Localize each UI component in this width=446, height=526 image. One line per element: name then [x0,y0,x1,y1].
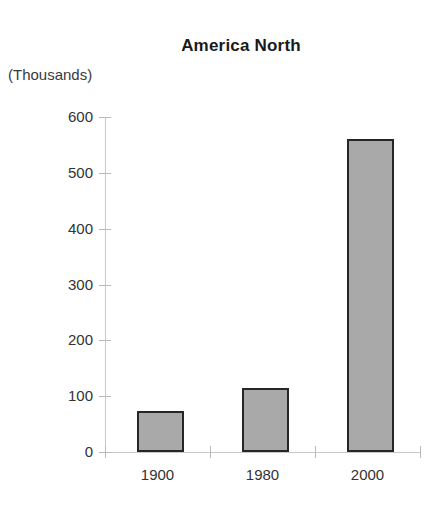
y-axis-tick-label-400: 400 [27,221,93,236]
y-axis-tick-label-100: 100 [27,388,93,403]
x-axis-tick-1 [210,446,211,458]
x-axis-tick-3 [420,446,421,458]
y-axis-tick-600 [99,117,111,118]
x-axis-tick-0 [105,446,106,458]
x-axis-label-1980: 1980 [210,466,315,483]
y-axis-tick-200 [99,340,111,341]
y-axis-tick-400 [99,229,111,230]
y-axis-tick-100 [99,396,111,397]
x-axis-tick-2 [315,446,316,458]
bar-chart-figure: America North (Thousands) 600 500 400 30… [0,0,446,526]
bar-1980 [242,388,289,452]
x-axis-label-2000: 2000 [315,466,420,483]
y-axis-tick-label-0: 0 [27,444,93,459]
y-axis-tick-300 [99,285,111,286]
bar-1900 [137,411,184,452]
bar-2000 [347,139,394,452]
y-axis-tick-label-300: 300 [27,277,93,292]
x-axis-line [105,452,421,453]
plot-area: 600 500 400 300 200 100 0 1900 1980 2000 [0,0,446,526]
y-axis-tick-500 [99,173,111,174]
y-axis-tick-label-600: 600 [27,109,93,124]
y-axis-tick-label-200: 200 [27,332,93,347]
x-axis-label-1900: 1900 [105,466,210,483]
y-axis-tick-label-500: 500 [27,165,93,180]
